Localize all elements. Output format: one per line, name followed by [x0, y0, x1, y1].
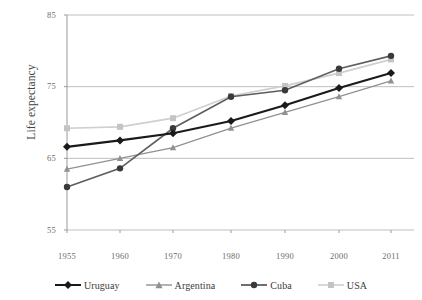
series-argentina	[64, 78, 394, 172]
legend-marker-square-icon	[318, 279, 344, 291]
data-point-cuba-1955	[64, 184, 70, 190]
series-layer	[63, 53, 395, 191]
legend-label-argentina: Argentina	[175, 280, 216, 291]
chart-legend: Uruguay Argentina Cuba USA	[0, 276, 422, 294]
axis-lines	[64, 15, 391, 233]
legend-item-cuba[interactable]: Cuba	[241, 279, 292, 291]
data-point-cuba-1960	[117, 165, 123, 171]
data-point-cuba-1980	[228, 94, 234, 100]
plot-area	[0, 0, 422, 300]
data-point-uruguay-1960	[116, 136, 124, 144]
data-point-uruguay-2011	[387, 69, 395, 77]
data-point-usa-1960	[117, 124, 123, 130]
legend-item-uruguay[interactable]: Uruguay	[55, 279, 120, 291]
gridlines	[67, 15, 414, 230]
legend-label-usa: USA	[347, 280, 367, 291]
line-uruguay	[67, 73, 391, 147]
data-point-argentina-2011	[388, 78, 394, 84]
legend-label-cuba: Cuba	[270, 280, 292, 291]
chart-figure: Life expectancy 85 75 65 55 1955 1960 19…	[0, 0, 422, 300]
legend-item-argentina[interactable]: Argentina	[146, 279, 216, 291]
data-point-cuba-1990	[282, 87, 288, 93]
data-point-cuba-2000	[336, 66, 342, 72]
legend-item-usa[interactable]: USA	[318, 279, 367, 291]
data-point-uruguay-1980	[227, 117, 235, 125]
data-point-uruguay-1955	[63, 143, 71, 151]
data-point-uruguay-2000	[335, 84, 343, 92]
data-point-cuba-2011	[388, 53, 394, 59]
legend-marker-diamond-icon	[55, 279, 81, 291]
legend-marker-triangle-icon	[146, 279, 172, 291]
data-point-usa-1970	[170, 115, 176, 121]
data-point-uruguay-1990	[281, 101, 289, 109]
data-point-usa-1955	[64, 125, 70, 131]
legend-marker-circle-icon	[241, 279, 267, 291]
series-uruguay	[63, 69, 395, 151]
legend-label-uruguay: Uruguay	[84, 280, 120, 291]
